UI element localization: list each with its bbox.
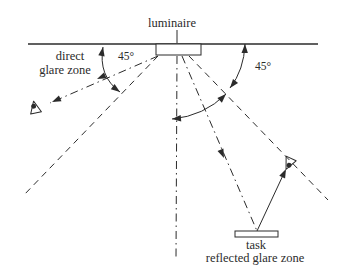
luminaire-fixture — [156, 44, 201, 55]
reflected-ray-line — [257, 171, 285, 231]
angle-arc-center — [172, 94, 226, 119]
luminaire-label: luminaire — [148, 16, 196, 30]
reflected-glare-zone-label: reflected glare zone — [206, 251, 305, 265]
reflected-glare-boundary-line-right — [189, 56, 328, 200]
task-surface — [235, 231, 278, 237]
angle-label-right: 45° — [255, 60, 272, 72]
angle-arc-center-right-arrowhead — [217, 92, 228, 103]
angle-label-left: 45° — [118, 50, 135, 62]
reflected-ray-arrowhead — [279, 168, 289, 179]
diagram-svg: luminaire direct glare zone 45° 45° task… — [0, 0, 345, 278]
incident-ray-line — [182, 56, 257, 231]
eye-pupil — [286, 162, 292, 168]
angle-arc-right-bottom-arrowhead — [227, 79, 238, 90]
direct-glare-zone-label-line1: direct — [56, 49, 85, 63]
task-label: task — [246, 238, 267, 252]
direct-glare-zone-label-line2: glare zone — [39, 63, 91, 77]
angle-arc-left-top-arrowhead — [98, 46, 106, 56]
nadir-axis-line — [176, 56, 177, 258]
angle-arc-right-top-arrowhead — [241, 44, 248, 53]
eye-icon — [28, 100, 41, 114]
sight-line-end-arrowhead — [51, 95, 62, 105]
direct-glare-boundary-line-left — [23, 56, 158, 196]
glare-zone-diagram: luminaire direct glare zone 45° 45° task… — [0, 0, 345, 278]
